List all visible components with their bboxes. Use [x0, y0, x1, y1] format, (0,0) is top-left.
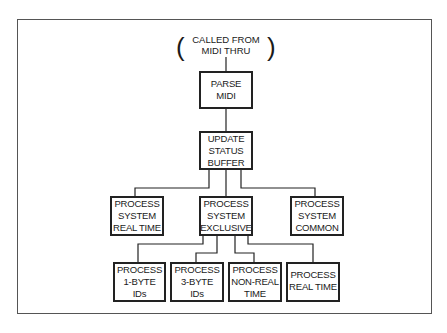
node-label: IDs [190, 288, 204, 300]
node-label: SYSTEM [118, 210, 156, 222]
node-label: PARSE [211, 78, 242, 90]
node-process-non-real-time: PROCESS NON-REAL TIME [228, 262, 282, 302]
node-update-status-buffer: UPDATE STATUS BUFFER [199, 131, 253, 170]
node-label: BUFFER [208, 157, 245, 169]
node-label: SYSTEM [298, 210, 336, 222]
node-process-system-common: PROCESS SYSTEM COMMON [290, 196, 344, 236]
node-label: PROCESS [114, 198, 159, 210]
node-label: PROCESS [174, 264, 219, 276]
entry-text: CALLED FROM MIDI THRU [175, 34, 277, 64]
node-label: PROCESS [294, 198, 339, 210]
node-label: NON-REAL [231, 276, 279, 288]
node-process-1-byte-ids: PROCESS 1-BYTE IDs [113, 262, 166, 302]
node-label: 1-BYTE [123, 276, 155, 288]
node-label: EXCLUSIVE [200, 222, 252, 234]
node-label: MIDI [216, 90, 235, 102]
node-process-real-time: PROCESS REAL TIME [286, 262, 340, 302]
entry-line-2: MIDI THRU [175, 45, 277, 56]
node-label: IDs [133, 288, 147, 300]
node-process-system-exclusive: PROCESS SYSTEM EXCLUSIVE [199, 196, 253, 236]
node-process-3-byte-ids: PROCESS 3-BYTE IDs [170, 262, 224, 302]
node-process-system-real-time: PROCESS SYSTEM REAL TIME [110, 196, 164, 236]
node-label: STATUS [209, 145, 244, 157]
node-label: PROCESS [232, 264, 277, 276]
node-label: REAL TIME [289, 281, 337, 293]
node-label: REAL TIME [113, 222, 161, 234]
node-label: COMMON [295, 222, 338, 234]
node-label: PROCESS [203, 198, 248, 210]
close-paren: ) [267, 34, 276, 60]
node-parse-midi: PARSE MIDI [199, 71, 253, 109]
node-label: PROCESS [290, 269, 335, 281]
node-label: UPDATE [208, 133, 245, 145]
node-label: PROCESS [117, 264, 162, 276]
node-label: TIME [244, 288, 266, 300]
entry-line-1: CALLED FROM [175, 34, 277, 45]
node-label: 3-BYTE [181, 276, 213, 288]
node-label: SYSTEM [207, 210, 245, 222]
